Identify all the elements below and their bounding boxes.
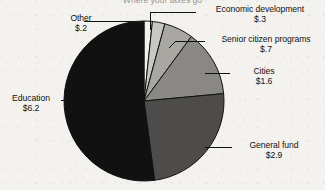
slice-label-senior-citizen-programs-value: $.7: [207, 44, 325, 54]
slice-label-education-value: $6.2: [2, 103, 60, 113]
pie-chart-screenshot: Where your taxes go Other $.2 Economic d…: [0, 0, 325, 190]
pie-slice-general-fund[interactable]: [144, 94, 224, 181]
slice-label-economic-development-value: $.3: [198, 14, 322, 24]
slice-label-other-value: $.2: [52, 23, 110, 33]
slice-label-other: Other $.2: [52, 13, 110, 33]
slice-label-economic-development-name: Economic development: [216, 4, 304, 14]
slice-label-education-name: Education: [12, 93, 50, 103]
slice-label-general-fund-name: General fund: [249, 140, 298, 150]
slice-label-other-name: Other: [70, 13, 91, 23]
slice-label-senior-citizen-programs-name: Senior citizen programs: [221, 34, 310, 44]
pie-slices-group: [64, 21, 224, 181]
slice-label-senior-citizen-programs: Senior citizen programs $.7: [207, 34, 325, 54]
slice-label-cities-value: $1.6: [233, 76, 295, 86]
slice-label-economic-development: Economic development $.3: [198, 4, 322, 24]
slice-label-education: Education $6.2: [2, 93, 60, 113]
pie-slice-education[interactable]: [64, 21, 155, 181]
slice-label-cities-name: Cities: [253, 66, 274, 76]
slice-label-cities: Cities $1.6: [233, 66, 295, 86]
slice-label-general-fund: General fund $2.9: [235, 140, 313, 160]
slice-label-general-fund-value: $2.9: [235, 150, 313, 160]
